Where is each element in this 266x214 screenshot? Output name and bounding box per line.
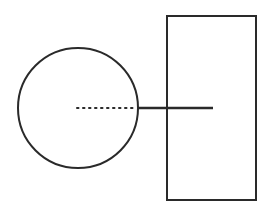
diagram-svg: [0, 0, 266, 214]
diagram-canvas: [0, 0, 266, 214]
